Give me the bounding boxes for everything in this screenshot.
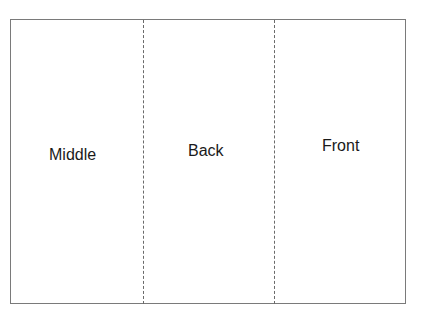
panel-label-middle: Middle [49,147,96,163]
fold-line-1 [143,20,144,304]
fold-line-2 [274,20,275,304]
panel-label-back: Back [188,143,224,159]
panel-label-front: Front [322,138,359,154]
